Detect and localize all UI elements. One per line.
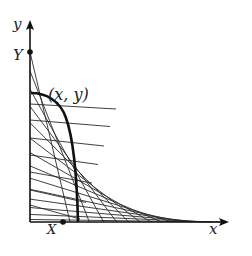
point-xy-label: (x, y) [48,87,89,103]
y-axis-label: y [13,17,21,32]
grid-lines [30,104,116,219]
point-X-label: X [47,223,56,236]
point-Y-label: Y [13,48,23,63]
point-X-marker [60,219,66,225]
envelope-diagram [0,0,252,256]
x-axis-label: x [209,222,217,237]
point-Y-marker [27,49,33,55]
